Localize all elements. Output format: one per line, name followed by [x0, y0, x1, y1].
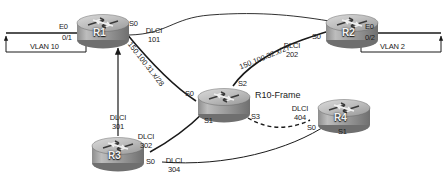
router-label-r2: R2 — [342, 27, 355, 38]
dlci-label-101-value: 101 — [143, 36, 165, 44]
network-diagram-canvas: R1 R2 R10-Frame R3 R4 E0 0/1 S0 E0 0/2 S… — [0, 0, 446, 186]
interface-label-r1-s0: S0 — [129, 20, 138, 28]
interface-label-r10-s1: S1 — [204, 117, 213, 125]
interface-label-r2-e0: E0 — [365, 23, 374, 31]
interface-label-r4-s1: S1 — [338, 128, 347, 136]
interface-label-r1-e0-sub: 0/1 — [62, 34, 72, 42]
interface-label-r10-s3: S3 — [251, 113, 260, 121]
vlan-label-vlan2: VLAN 2 — [380, 43, 405, 51]
dlci-label-301-value: 301 — [107, 123, 129, 131]
router-label-r3: R3 — [108, 150, 121, 161]
vlan-label-vlan10: VLAN 10 — [30, 43, 59, 51]
interface-label-r4-s0: S0 — [307, 124, 316, 132]
interface-label-r2-e0-sub: 0/2 — [365, 34, 375, 42]
dlci-label-302-value: 302 — [135, 142, 157, 150]
interface-label-r10-s0: S0 — [185, 90, 194, 98]
link-r3-to-r10 — [150, 113, 203, 152]
dlci-label-404-value: 404 — [289, 114, 311, 122]
router-label-r10: R10-Frame — [255, 90, 301, 100]
link-r3-to-r4 — [162, 124, 328, 163]
interface-label-r3-s0: S0 — [146, 158, 155, 166]
interface-label-r10-s2: S2 — [238, 80, 247, 88]
dlci-label-304-value: 304 — [163, 166, 185, 174]
router-label-r1: R1 — [93, 27, 106, 38]
interface-label-r1-e0: E0 — [59, 23, 68, 31]
router-label-r4: R4 — [334, 112, 347, 123]
interface-label-r2-s0: S0 — [312, 33, 321, 41]
